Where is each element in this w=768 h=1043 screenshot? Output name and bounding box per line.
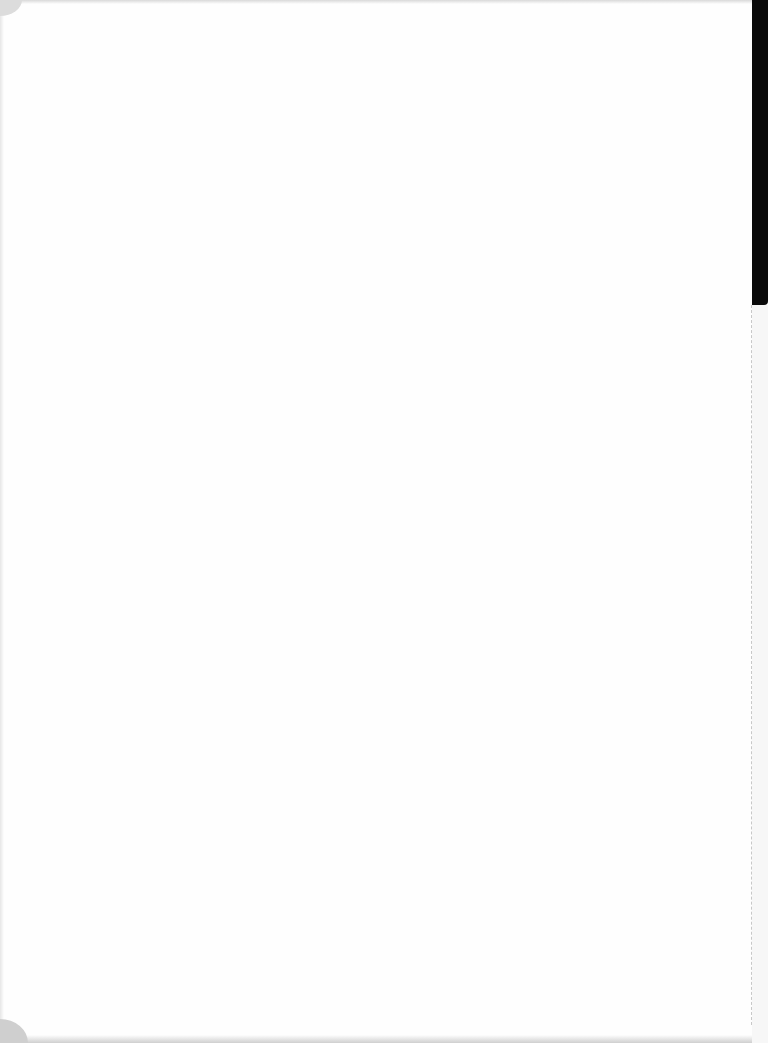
perforated-edge <box>751 305 752 1025</box>
page-left-edge <box>0 0 4 1043</box>
scanned-document <box>0 0 768 1043</box>
blank-page <box>0 0 752 1043</box>
corner-curl-bottom-left <box>0 1019 28 1043</box>
corner-curl-top-left <box>0 0 22 16</box>
binding-strip <box>752 0 768 305</box>
page-top-edge <box>0 0 752 4</box>
page-bottom-edge <box>0 1035 752 1043</box>
right-margin <box>752 305 768 1043</box>
